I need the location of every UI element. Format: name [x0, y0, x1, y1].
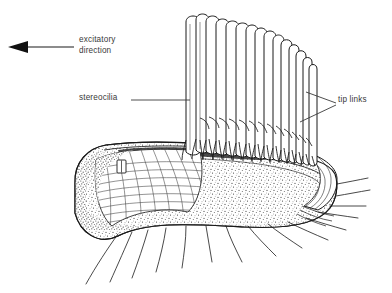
hair-cell-illustration: [0, 0, 392, 293]
basal-body: [117, 160, 126, 173]
figure-canvas: excitatory direction stereocilia tip lin…: [0, 0, 392, 293]
label-excitatory-direction: excitatory direction: [79, 35, 116, 56]
excitatory-direction-arrow: [8, 41, 74, 53]
label-tip-links: tip links: [338, 95, 367, 106]
label-stereocilia: stereocilia: [79, 93, 118, 104]
